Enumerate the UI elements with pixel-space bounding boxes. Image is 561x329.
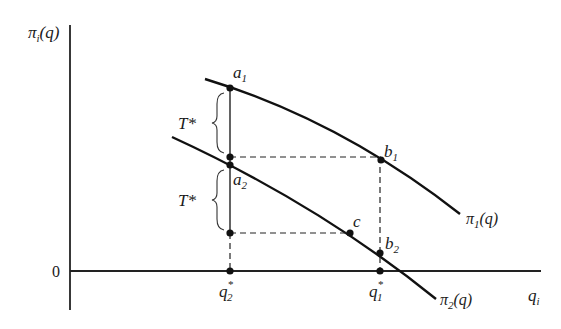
point-a1: [226, 84, 233, 91]
label-b1: b1: [384, 142, 398, 163]
profit-curve-1: [205, 79, 460, 214]
brace-lower: [212, 170, 224, 230]
label-c: c: [353, 212, 361, 231]
diagram: πi(q) 0 qi π1(q) π2(q) a1 a2 b1 b2 c q*2…: [0, 0, 561, 329]
brace-upper-label: T*: [178, 114, 196, 133]
y-axis-label: πi(q): [28, 23, 60, 44]
label-b2: b2: [385, 234, 400, 255]
point-q2-star: [226, 267, 233, 274]
brace-upper: [212, 93, 224, 153]
label-q1-star: q*1: [369, 278, 384, 303]
label-q2-star: q*2: [219, 278, 234, 303]
point-upper-transfer: [226, 153, 233, 160]
origin-label: 0: [52, 263, 60, 280]
curve-2-label: π2(q): [440, 291, 472, 311]
curve-1-label: π1(q): [466, 210, 498, 230]
point-lower-transfer: [226, 229, 233, 236]
label-a1: a1: [233, 63, 247, 84]
brace-lower-label: T*: [178, 191, 196, 210]
point-b2: [376, 249, 383, 256]
point-a2: [226, 161, 233, 168]
x-axis-label: qi: [528, 286, 540, 307]
point-q1-star: [376, 267, 383, 274]
